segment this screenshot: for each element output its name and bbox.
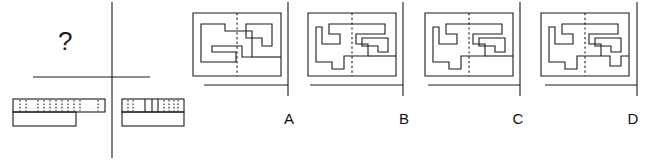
question-mark: ? [58,28,72,54]
maze-option-c [425,2,520,96]
option-label-c: C [508,111,528,126]
puzzle-figure [0,0,656,160]
left-question-panel [13,2,184,158]
hatched-bar-right [122,99,184,126]
maze-option-a [193,2,288,96]
maze-option-d [541,2,637,96]
maze-option-b [308,2,403,96]
option-label-d: D [623,111,643,126]
puzzle-canvas [0,0,656,160]
hatched-bar-left [13,99,105,126]
option-label-b: B [394,111,414,126]
option-label-a: A [279,111,299,126]
